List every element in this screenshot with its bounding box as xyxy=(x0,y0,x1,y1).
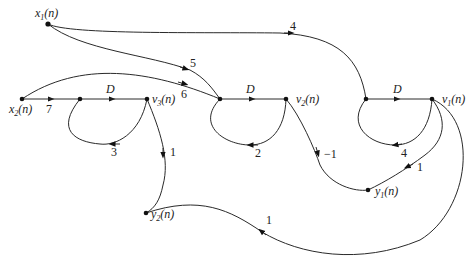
node-a1 xyxy=(364,97,369,102)
label-x2: x2(n) xyxy=(8,102,32,118)
edge-v3-y2 xyxy=(146,99,165,213)
label-v1: v1(n) xyxy=(442,92,465,108)
edge-v2-a2-feedback xyxy=(211,99,286,145)
edge-v1-y1 xyxy=(368,99,442,190)
gain-d1: D xyxy=(392,82,402,96)
gain-3: 3 xyxy=(111,145,117,159)
svg-text:v1(n): v1(n) xyxy=(442,92,465,108)
svg-text:v3(n): v3(n) xyxy=(152,92,175,108)
edge-v1-a1-feedback xyxy=(358,99,432,145)
gain-7: 7 xyxy=(46,102,52,116)
node-v2 xyxy=(284,97,289,102)
svg-text:y1(n): y1(n) xyxy=(374,184,398,200)
label-v2: v2(n) xyxy=(296,92,319,108)
node-x2 xyxy=(20,97,25,102)
node-y1 xyxy=(366,188,371,193)
gain-d3: D xyxy=(105,82,115,96)
gain-5: 5 xyxy=(190,56,196,70)
edge-x2-a2 xyxy=(22,73,220,99)
gain-1-v3-y2: 1 xyxy=(170,145,176,159)
node-a2 xyxy=(218,97,223,102)
signal-flow-graph: x1(n) x2(n) v3(n) v2(n) v1(n) y1(n) y2(n… xyxy=(0,0,474,261)
gain-4-loop: 4 xyxy=(401,146,407,160)
node-y2 xyxy=(144,211,149,216)
gain-2: 2 xyxy=(255,146,261,160)
label-y2: y2(n) xyxy=(150,207,174,223)
node-v1 xyxy=(430,97,435,102)
gain-1-v1-y1: 1 xyxy=(417,160,423,174)
node-v3 xyxy=(145,97,150,102)
label-x1: x1(n) xyxy=(34,6,58,22)
edge-v1-y2 xyxy=(146,99,463,255)
edge-v3-a3-feedback xyxy=(69,99,147,144)
svg-text:v2(n): v2(n) xyxy=(296,92,319,108)
edge-v2-y1 xyxy=(286,99,368,190)
gain-minus1: −1 xyxy=(324,147,337,161)
gain-4: 4 xyxy=(290,19,296,33)
gain-1-v1-y2: 1 xyxy=(266,213,272,227)
gain-6: 6 xyxy=(181,87,187,101)
gain-d2: D xyxy=(245,82,255,96)
label-y1: y1(n) xyxy=(374,184,398,200)
node-x1 xyxy=(45,21,50,26)
svg-text:y2(n): y2(n) xyxy=(150,207,174,223)
node-a3 xyxy=(78,97,83,102)
edge-x1-a1 xyxy=(48,24,366,99)
label-v3: v3(n) xyxy=(152,92,175,108)
svg-text:x2(n): x2(n) xyxy=(8,102,32,118)
svg-text:x1(n): x1(n) xyxy=(34,6,58,22)
